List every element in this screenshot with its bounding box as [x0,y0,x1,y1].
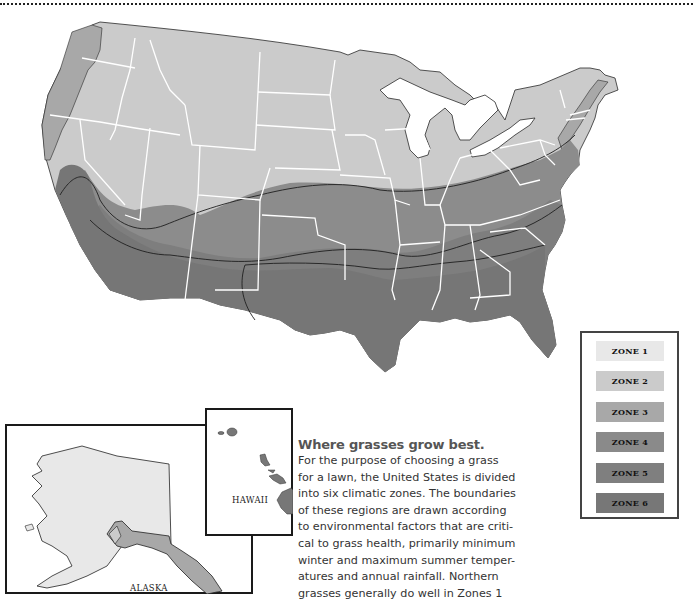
caption-title: Where grasses grow best. [298,437,568,452]
legend-zone-3: ZONE 3 [596,402,664,422]
caption: Where grasses grow best. For the purpose… [298,437,568,602]
legend-label: ZONE 6 [612,498,648,508]
legend-label: ZONE 3 [612,407,648,417]
caption-line: of these regions are drawn according [298,503,568,520]
caption-line: to environmental factors that are criti- [298,519,568,536]
caption-line: winter and maximum summer temper- [298,553,568,570]
hawaii-inset: HAWAII [205,408,293,536]
legend-label: ZONE 4 [612,437,648,447]
legend-zone-5: ZONE 5 [596,463,664,483]
legend-zone-4: ZONE 4 [596,432,664,452]
caption-line: into six climatic zones. The boundaries [298,486,568,503]
caption-body: For the purpose of choosing a grass for … [298,453,568,602]
legend-zone-6: ZONE 6 [596,493,664,513]
caption-line: cal to grass health, primarily minimum [298,536,568,553]
legend-label: ZONE 1 [612,346,648,356]
legend-zone-1: ZONE 1 [596,341,664,361]
caption-line: for a lawn, the United States is divided [298,470,568,487]
caption-line: atures and annual rainfall. Northern [298,569,568,586]
legend-label: ZONE 5 [612,468,648,478]
caption-line: For the purpose of choosing a grass [298,453,568,470]
legend-zone-2: ZONE 2 [596,371,664,391]
hawaii-label: HAWAII [232,495,268,505]
legend-label: ZONE 2 [612,376,648,386]
caption-line: grasses generally do well in Zones 1 [298,586,568,602]
legend: ZONE 1 ZONE 2 ZONE 3 ZONE 4 ZONE 5 ZONE … [580,331,679,519]
florida [520,298,556,358]
alaska-label: ALASKA [130,583,168,593]
hawaii-map [207,410,293,536]
